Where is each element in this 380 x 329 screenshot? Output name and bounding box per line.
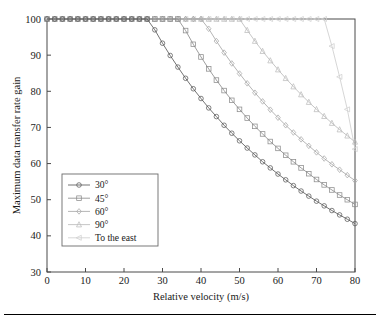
series-90- xyxy=(45,16,358,144)
legend-label-3: 90° xyxy=(95,219,109,230)
footer-divider xyxy=(4,314,376,315)
y-tick-label-7: 100 xyxy=(25,14,41,25)
legend-label-0: 30° xyxy=(95,179,109,190)
x-tick-label-4: 40 xyxy=(196,275,207,286)
y-tick-label-4: 70 xyxy=(31,122,42,133)
x-tick-label-3: 30 xyxy=(157,275,168,286)
legend-label-4: To the east xyxy=(95,232,137,243)
x-tick-label-8: 80 xyxy=(350,275,361,286)
x-tick-label-1: 10 xyxy=(80,275,91,286)
series-60- xyxy=(45,16,358,183)
x-axis-title: Relative velocity (m/s) xyxy=(153,291,250,303)
y-axis-title: Maximum data transfer rate gain xyxy=(11,76,22,214)
series-to-the-east xyxy=(44,17,357,152)
series-line xyxy=(47,19,355,142)
y-tick-label-0: 30 xyxy=(31,267,42,278)
legend-label-2: 60° xyxy=(95,206,109,217)
y-tick-label-6: 90 xyxy=(31,50,42,61)
figure-container: 0102030405060708030405060708090100Relati… xyxy=(0,0,380,329)
legend-label-1: 45° xyxy=(95,193,109,204)
y-tick-label-5: 80 xyxy=(31,86,42,97)
x-tick-label-2: 20 xyxy=(119,275,130,286)
x-tick-label-6: 60 xyxy=(273,275,284,286)
x-tick-label-5: 50 xyxy=(234,275,245,286)
series-line xyxy=(47,19,355,149)
chart-canvas: 0102030405060708030405060708090100Relati… xyxy=(0,0,380,329)
x-tick-label-0: 0 xyxy=(44,275,49,286)
y-tick-label-1: 40 xyxy=(31,230,42,241)
y-tick-label-3: 60 xyxy=(31,158,42,169)
y-tick-label-2: 50 xyxy=(31,194,42,205)
x-tick-label-7: 70 xyxy=(311,275,322,286)
legend: 30°45°60°90°To the east xyxy=(62,174,158,246)
